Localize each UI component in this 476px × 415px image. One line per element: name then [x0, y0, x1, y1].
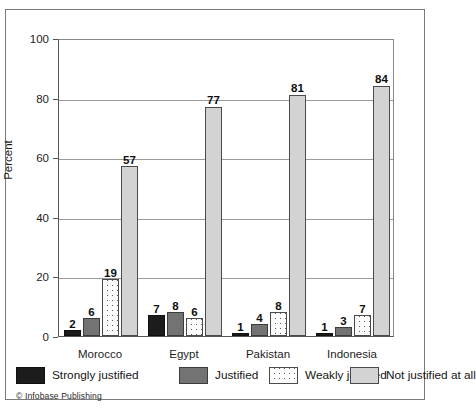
legend-swatch — [350, 367, 379, 384]
bar-value-label: 19 — [104, 268, 117, 280]
y-tick-mark — [53, 337, 58, 338]
bar: 3 — [335, 327, 352, 336]
bar-value-label: 6 — [191, 307, 197, 319]
bar: 1 — [232, 333, 249, 336]
bar: 4 — [251, 324, 268, 336]
bar-value-label: 1 — [321, 322, 327, 334]
gridline — [59, 159, 393, 160]
bar-value-label: 6 — [88, 307, 94, 319]
bar: 57 — [121, 166, 138, 336]
bar: 8 — [270, 312, 287, 336]
bar: 7 — [354, 315, 371, 336]
gridline — [59, 219, 393, 220]
bar-value-label: 77 — [207, 95, 220, 107]
x-axis-category-label: Egypt — [169, 348, 198, 360]
legend-swatch — [16, 367, 45, 384]
bar: 2 — [64, 330, 81, 336]
legend-item[interactable]: Strongly justified — [16, 365, 139, 385]
y-axis-title: Percent — [2, 140, 14, 180]
chart-legend: Strongly justifiedJustifiedWeakly justif… — [16, 365, 420, 387]
y-tick-label: 0 — [15, 331, 49, 343]
bar-value-label: 2 — [69, 319, 75, 331]
bar: 77 — [205, 107, 222, 336]
bar-value-label: 84 — [375, 74, 388, 86]
legend-label: Strongly justified — [52, 368, 139, 382]
bar-value-label: 1 — [237, 322, 243, 334]
bar: 8 — [167, 312, 184, 336]
bar-value-label: 8 — [275, 301, 281, 313]
y-tick-label: 100 — [15, 33, 49, 45]
bar-value-label: 7 — [153, 304, 159, 316]
x-axis-category-label: Indonesia — [327, 348, 377, 360]
bar-value-label: 4 — [256, 313, 262, 325]
x-axis-category-label: Morocco — [78, 348, 122, 360]
y-tick-label: 80 — [15, 93, 49, 105]
copyright-credit: © Infobase Publishing — [16, 391, 102, 401]
gridline — [59, 100, 393, 101]
bar-value-label: 3 — [340, 316, 346, 328]
bar-value-label: 7 — [359, 304, 365, 316]
bar-value-label: 81 — [291, 83, 304, 95]
chart-figure: Percent 020406080100 MoroccoEgyptPakista… — [5, 9, 425, 400]
plot-area: 261957786771488113784 — [58, 39, 394, 337]
bar: 81 — [289, 95, 306, 336]
y-tick-label: 60 — [15, 152, 49, 164]
legend-item[interactable]: Not justified at all — [350, 365, 476, 385]
bar: 19 — [102, 279, 119, 336]
bar: 84 — [373, 86, 390, 336]
y-tick-label: 20 — [15, 271, 49, 283]
legend-label: Not justified at all — [386, 368, 476, 382]
bar-value-label: 8 — [172, 301, 178, 313]
bar-value-label: 57 — [123, 155, 136, 167]
legend-label: Justified — [215, 368, 258, 382]
bar: 6 — [83, 318, 100, 336]
x-axis-category-label: Pakistan — [246, 348, 290, 360]
y-tick-label: 40 — [15, 212, 49, 224]
legend-item[interactable]: Justified — [179, 365, 258, 385]
bar: 6 — [186, 318, 203, 336]
legend-swatch — [179, 367, 208, 384]
legend-swatch — [269, 367, 298, 384]
bar: 7 — [148, 315, 165, 336]
bar: 1 — [316, 333, 333, 336]
